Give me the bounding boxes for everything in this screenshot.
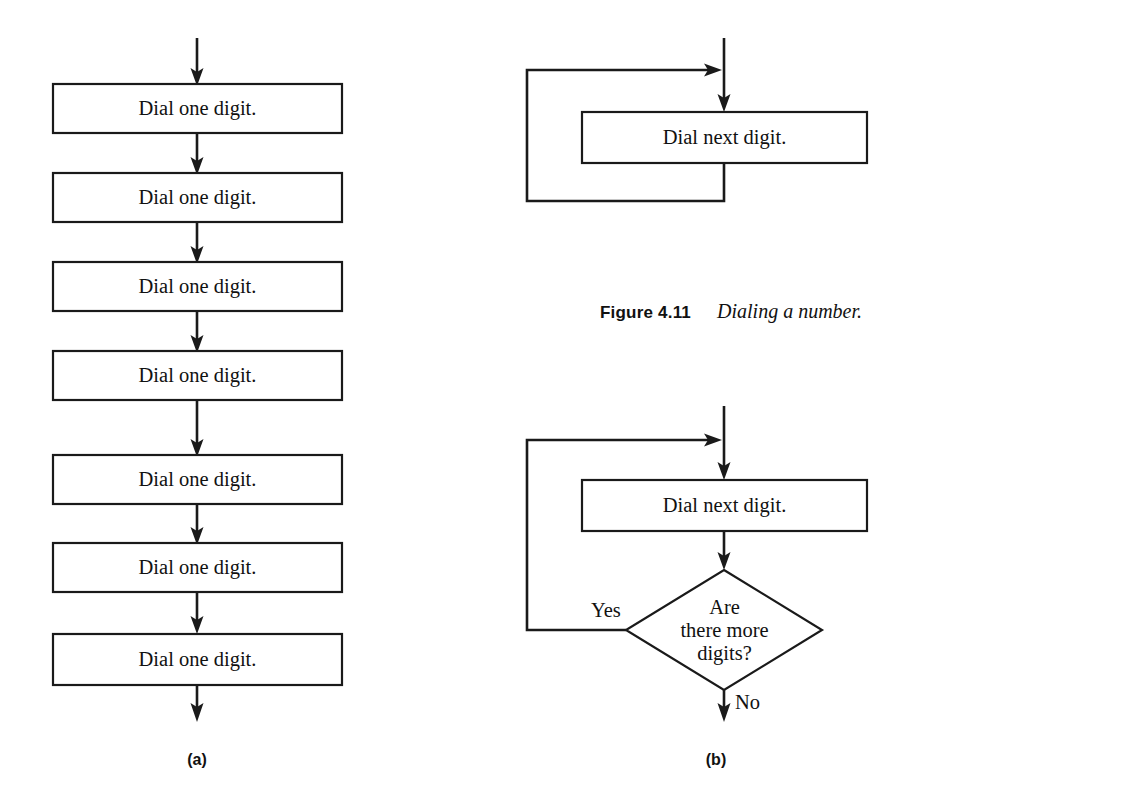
- panel-a-step-2-label: Dial one digit.: [139, 186, 257, 209]
- panel-b-top-process-label: Dial next digit.: [663, 126, 787, 149]
- panel-b-bottom-decision-line2: there more: [680, 619, 768, 641]
- panel-b-bottom-group: Dial next digit. Are there more digits? …: [527, 406, 867, 768]
- panel-a-step-1: Dial one digit.: [53, 84, 342, 133]
- figure-flowchart-dialing: Dial one digit. Dial one digit. Dial one…: [0, 0, 1136, 802]
- panel-b-top-group: Dial next digit.: [527, 38, 867, 201]
- panel-a-step-6-label: Dial one digit.: [139, 556, 257, 579]
- panel-a-step-7: Dial one digit.: [53, 634, 342, 685]
- panel-a-step-2: Dial one digit.: [53, 173, 342, 222]
- panel-a-step-7-label: Dial one digit.: [139, 648, 257, 671]
- panel-a-connector-2: [191, 222, 204, 264]
- panel-a-exit-arrow: [191, 685, 204, 722]
- panel-a-connector-3: [191, 311, 204, 353]
- panel-b-bottom-decision-line1: Are: [709, 596, 740, 618]
- flowchart-canvas: Dial one digit. Dial one digit. Dial one…: [0, 0, 1136, 802]
- panel-a-step-5: Dial one digit.: [53, 455, 342, 504]
- panel-a-connector-1: [191, 133, 204, 175]
- panel-a-step-6: Dial one digit.: [53, 543, 342, 592]
- panel-a-group: Dial one digit. Dial one digit. Dial one…: [53, 38, 342, 768]
- figure-caption: Figure 4.11Dialing a number.: [600, 300, 1070, 323]
- panel-a-step-1-label: Dial one digit.: [139, 97, 257, 120]
- panel-a-entry-arrow: [191, 38, 204, 86]
- panel-a-step-4: Dial one digit.: [53, 351, 342, 400]
- figure-caption-number: Figure 4.11: [600, 303, 691, 322]
- panel-a-connector-6: [191, 592, 204, 634]
- panel-b-bottom-decision-line3: digits?: [697, 642, 752, 665]
- panel-b-bottom-process-label: Dial next digit.: [663, 494, 787, 517]
- panel-a-connector-4: [191, 400, 204, 457]
- panel-a-caption: (a): [187, 751, 207, 768]
- panel-a-connector-5: [191, 504, 204, 545]
- panel-a-step-3-label: Dial one digit.: [139, 275, 257, 298]
- panel-a-step-3: Dial one digit.: [53, 262, 342, 311]
- panel-b-bottom-yes-label: Yes: [591, 599, 621, 621]
- panel-b-bottom-no-label: No: [735, 691, 760, 713]
- panel-b-caption: (b): [706, 751, 726, 768]
- panel-a-step-4-label: Dial one digit.: [139, 364, 257, 387]
- figure-caption-text: Dialing a number.: [717, 300, 862, 322]
- panel-a-step-5-label: Dial one digit.: [139, 468, 257, 491]
